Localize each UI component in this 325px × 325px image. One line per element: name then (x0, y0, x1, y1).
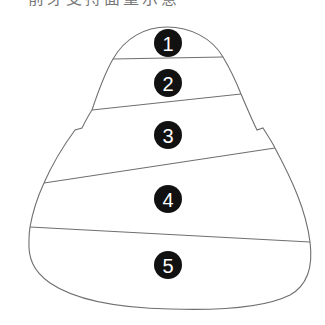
divider-3 (44, 148, 275, 183)
region-badge-2: 2 (154, 69, 182, 97)
region-badge-1: 1 (154, 29, 182, 57)
svg-text:5: 5 (162, 255, 173, 277)
svg-text:1: 1 (162, 33, 173, 55)
region-badge-3: 3 (154, 121, 182, 149)
tooth-zone-diagram: 1 2 3 4 5 (0, 0, 325, 325)
divider-4 (30, 227, 310, 242)
svg-text:3: 3 (162, 125, 173, 147)
divider-1 (113, 57, 223, 59)
region-badge-5: 5 (154, 251, 182, 279)
region-badge-4: 4 (154, 185, 182, 213)
svg-text:2: 2 (162, 73, 173, 95)
svg-text:4: 4 (162, 189, 173, 211)
